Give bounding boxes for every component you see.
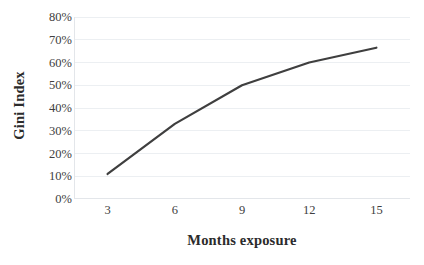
plot-svg <box>74 17 410 199</box>
series-line-gini-index <box>108 48 377 174</box>
y-axis-tick-label: 80% <box>28 11 72 24</box>
y-axis-tick-labels: 0%10%20%30%40%50%60%70%80% <box>28 17 72 199</box>
plot-area <box>74 17 410 199</box>
x-axis-title: Months exposure <box>74 232 410 249</box>
x-axis-tick-label: 12 <box>279 204 339 218</box>
y-axis-tick-label: 50% <box>28 79 72 92</box>
data-line <box>108 48 377 174</box>
gridlines <box>74 17 410 199</box>
x-axis-tick-label: 15 <box>346 204 406 218</box>
x-axis-tick-labels: 3691215 <box>74 204 410 226</box>
y-axis-tick-label: 30% <box>28 125 72 138</box>
x-axis-tick-label: 3 <box>78 204 138 218</box>
y-axis-title: Gini Index <box>8 0 30 210</box>
y-axis-tick-label: 40% <box>28 102 72 115</box>
y-axis-tick-label: 70% <box>28 34 72 47</box>
gini-index-line-chart: Gini Index 0%10%20%30%40%50%60%70%80% 36… <box>0 0 424 265</box>
y-axis-title-text: Gini Index <box>11 71 28 139</box>
y-axis-tick-label: 60% <box>28 56 72 69</box>
x-axis-tick-label: 6 <box>145 204 205 218</box>
x-axis-tick-label: 9 <box>212 204 272 218</box>
y-axis-tick-label: 20% <box>28 147 72 160</box>
y-axis-tick-label: 10% <box>28 170 72 183</box>
y-axis-tick-label: 0% <box>28 193 72 206</box>
